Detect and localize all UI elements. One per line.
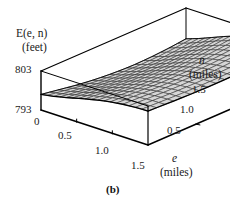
y-tick-1-5: 1.5 xyxy=(192,84,206,96)
z-tick-793: 793 xyxy=(15,104,32,116)
surface-plot-figure: E(e, n) (feet) 803 793 0 0.5 1.0 1.5 e (… xyxy=(0,0,230,204)
y-tick-0-5: 0.5 xyxy=(167,125,181,137)
figure-caption: (b) xyxy=(106,183,119,195)
y-axis-title-line1: n xyxy=(199,54,205,66)
y-axis-title-line2: (miles) xyxy=(189,68,222,80)
z-axis-title-line2: (feet) xyxy=(22,41,47,53)
x-tick-1-0: 1.0 xyxy=(95,145,109,157)
y-tick-1-0: 1.0 xyxy=(180,104,194,116)
x-tick-1-5: 1.5 xyxy=(131,160,145,172)
x-tick-0-5: 0.5 xyxy=(58,130,72,142)
z-axis-title-line1: E(e, n) xyxy=(16,27,47,39)
z-tick-803: 803 xyxy=(15,64,32,76)
x-tick-0: 0 xyxy=(34,116,40,128)
x-axis-title-line1: e xyxy=(172,152,177,164)
x-axis-title-line2: (miles) xyxy=(160,166,193,178)
